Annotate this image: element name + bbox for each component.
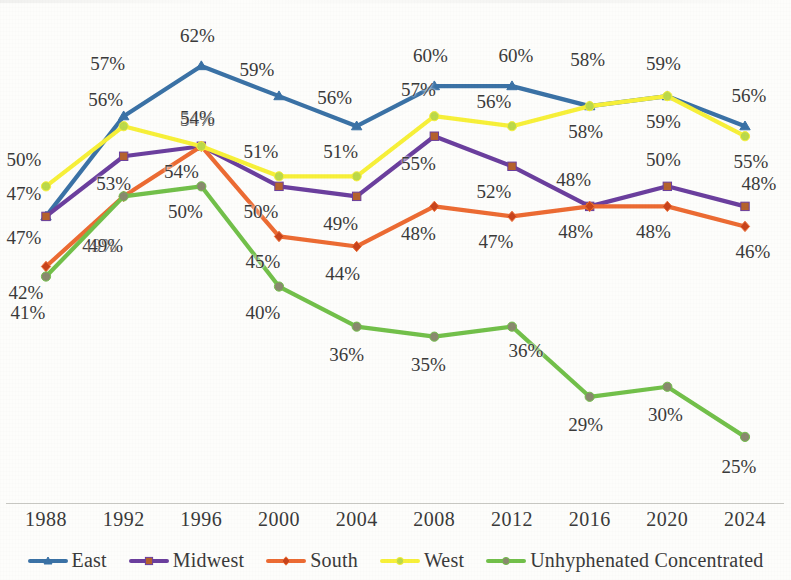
legend-item-east[interactable]: East (28, 549, 107, 572)
legend-marker-icon (43, 556, 53, 566)
series-line (46, 96, 745, 186)
series-marker (663, 201, 672, 211)
data-label: 56% (477, 91, 512, 113)
x-tick-1992: 1992 (103, 508, 145, 531)
data-label: 45% (246, 251, 281, 273)
data-label: 36% (509, 340, 544, 362)
data-label: 54% (164, 161, 199, 183)
data-label: 50% (244, 201, 279, 223)
series-marker (352, 322, 361, 331)
x-tick-2004: 2004 (336, 508, 378, 531)
legend-item-unhyphenated-concentrated[interactable]: Unhyphenated Concentrated (486, 549, 763, 572)
legend-swatch-icon (266, 554, 306, 568)
data-label: 49% (88, 235, 123, 257)
series-marker (430, 112, 439, 121)
series-marker (507, 122, 516, 131)
data-label: 59% (646, 53, 681, 75)
series-marker (41, 272, 50, 281)
data-label: 48% (742, 173, 777, 195)
series-marker (41, 182, 50, 191)
data-label: 57% (401, 79, 436, 101)
legend-marker-icon (501, 556, 511, 566)
series-marker (507, 322, 516, 331)
data-label: 47% (7, 227, 42, 249)
series-marker (352, 172, 361, 181)
legend-label: Midwest (173, 549, 244, 572)
data-label: 48% (636, 221, 671, 243)
data-label: 48% (558, 221, 593, 243)
data-label: 36% (329, 344, 364, 366)
data-label: 44% (325, 263, 360, 285)
data-label: 58% (568, 121, 603, 143)
data-label: 51% (244, 141, 279, 163)
series-marker (585, 392, 594, 401)
data-label: 50% (7, 149, 42, 171)
legend-swatch-icon (380, 554, 420, 568)
data-label: 29% (568, 414, 603, 436)
data-label: 60% (499, 45, 534, 67)
data-label: 49% (323, 213, 358, 235)
series-marker (741, 202, 749, 210)
legend-swatch-icon (486, 554, 526, 568)
legend-marker-icon (395, 556, 405, 566)
data-label: 56% (317, 87, 352, 109)
chart-legend: EastMidwestSouthWestUnhyphenated Concent… (0, 549, 791, 572)
data-label: 30% (648, 404, 683, 426)
data-label: 53% (96, 173, 131, 195)
series-marker (663, 382, 672, 391)
data-label: 25% (722, 456, 757, 478)
series-marker (274, 172, 283, 181)
series-marker (740, 221, 749, 231)
legend-label: Unhyphenated Concentrated (530, 549, 763, 572)
legend-marker-icon (281, 556, 291, 566)
legend-label: South (310, 549, 358, 572)
legend-item-west[interactable]: West (380, 549, 464, 572)
data-label: 41% (11, 302, 46, 324)
data-label: 47% (7, 183, 42, 205)
data-label: 55% (401, 153, 436, 175)
legend-marker-icon (144, 556, 154, 566)
data-label: 48% (556, 169, 591, 191)
data-label: 59% (240, 59, 275, 81)
data-label: 51% (323, 141, 358, 163)
scan-edge-artifact (0, 0, 791, 3)
data-label: 60% (413, 45, 448, 67)
data-label: 57% (90, 53, 125, 75)
data-label: 42% (9, 282, 44, 304)
data-label: 35% (411, 354, 446, 376)
data-label: 59% (646, 111, 681, 133)
legend-label: West (424, 549, 464, 572)
x-tick-1988: 1988 (25, 508, 67, 531)
series-marker (585, 102, 594, 111)
line-chart: 47%57%62%59%56%60%60%58%59%56%47%53%54%5… (0, 0, 791, 580)
data-label: 62% (180, 25, 215, 47)
data-label: 56% (88, 89, 123, 111)
series-marker (119, 122, 128, 131)
x-axis-tick-labels: 1988199219962000200420082012201620202024 (0, 508, 791, 542)
data-label: 54% (180, 107, 215, 129)
data-label: 40% (246, 302, 281, 324)
legend-label: East (72, 549, 107, 572)
x-tick-1996: 1996 (180, 508, 222, 531)
data-label: 52% (477, 181, 512, 203)
data-label: 50% (646, 149, 681, 171)
series-marker (430, 132, 438, 140)
legend-swatch-icon (129, 554, 169, 568)
series-marker (740, 132, 749, 141)
x-tick-2024: 2024 (724, 508, 766, 531)
x-tick-2008: 2008 (413, 508, 455, 531)
data-label: 56% (732, 85, 767, 107)
x-tick-2016: 2016 (569, 508, 611, 531)
series-marker (430, 332, 439, 341)
data-label: 46% (736, 241, 771, 263)
series-marker (352, 192, 360, 200)
series-marker (663, 92, 672, 101)
data-label: 48% (401, 223, 436, 245)
legend-item-midwest[interactable]: Midwest (129, 549, 244, 572)
legend-item-south[interactable]: South (266, 549, 358, 572)
series-marker (197, 142, 206, 151)
data-label: 58% (570, 49, 605, 71)
series-south (41, 141, 749, 272)
series-marker (507, 211, 516, 221)
series-east (41, 61, 750, 220)
